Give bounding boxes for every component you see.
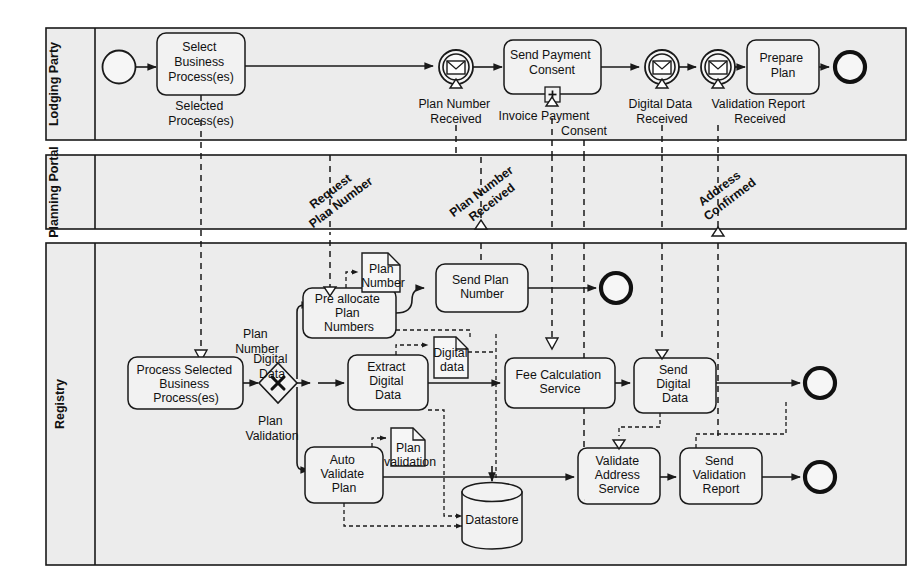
task-process-selected-business-processes[interactable]: Process Selected Business Process(es) xyxy=(128,357,243,409)
task-label: Validate Address Service xyxy=(595,454,644,496)
task-validate-address-service[interactable]: Validate Address Service xyxy=(578,448,660,504)
registry-end-event-2[interactable] xyxy=(805,368,835,398)
label-consent: Consent xyxy=(561,124,607,138)
task-pre-allocate-plan-numbers[interactable]: Pre allocate Plan Numbers xyxy=(303,288,396,338)
task-select-business-process[interactable]: Select Business Process(es) xyxy=(157,33,245,95)
registry-end-event-1[interactable] xyxy=(601,273,631,303)
task-prepare-plan[interactable]: Prepare Plan xyxy=(747,40,819,94)
lodging-start-event[interactable] xyxy=(103,51,136,84)
task-send-plan-number[interactable]: Send Plan Number xyxy=(436,264,528,312)
label-digital-data-received: Digital Data Received xyxy=(629,97,696,126)
bpmn-diagram-canvas: Lodging Party Planning Portal Registry S… xyxy=(0,0,923,580)
task-extract-digital-data[interactable]: Extract Digital Data xyxy=(348,355,428,410)
task-auto-validate-plan[interactable]: Auto Validate Plan xyxy=(305,447,383,503)
registry-end-event-3[interactable] xyxy=(805,462,835,492)
lane-label-registry: Registry xyxy=(53,379,67,429)
task-fee-calculation-service[interactable]: Fee Calculation Service xyxy=(505,358,615,408)
task-send-payment-consent[interactable]: Send Payment Consent xyxy=(504,40,601,102)
task-send-validation-report[interactable]: Send Validation Report xyxy=(680,448,762,504)
lodging-end-event[interactable] xyxy=(835,52,865,82)
label-invoice-payment: Invoice Payment xyxy=(499,109,590,123)
datastore: Datastore xyxy=(462,483,522,550)
bpmn-svg-root: Lodging Party Planning Portal Registry S… xyxy=(0,0,923,580)
task-label: Send Plan Number xyxy=(452,273,512,301)
lane-label-planning-portal: Planning Portal xyxy=(47,146,61,238)
task-send-digital-data[interactable]: Send Digital Data xyxy=(634,358,716,413)
lane-label-lodging-party: Lodging Party xyxy=(47,42,61,126)
datastore-label: Datastore xyxy=(465,513,518,527)
